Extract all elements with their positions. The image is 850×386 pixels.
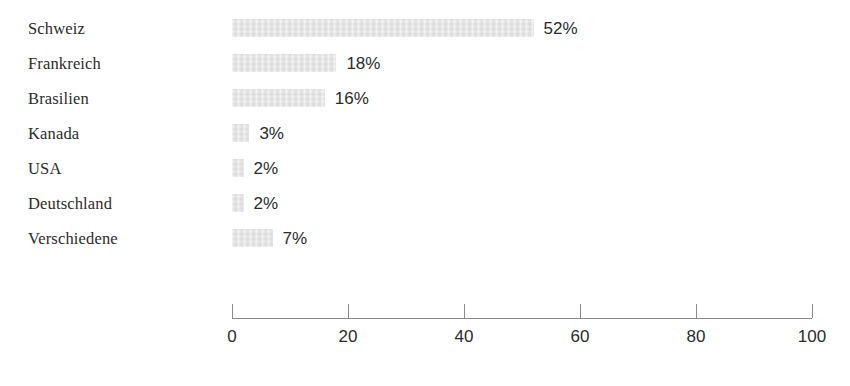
bar-row: USA2% bbox=[0, 151, 850, 186]
category-label-frankreich: Frankreich bbox=[28, 46, 101, 81]
x-axis-tick-label-20: 20 bbox=[339, 327, 358, 347]
bar-row: Schweiz52% bbox=[0, 11, 850, 46]
bar-value-label-frankreich: 18% bbox=[346, 46, 380, 81]
bar-value-label-kanada: 3% bbox=[259, 116, 284, 151]
bar-schweiz bbox=[232, 19, 534, 37]
bar-deutschland bbox=[232, 194, 244, 212]
bar-verschiedene bbox=[232, 229, 273, 247]
category-label-verschiedene: Verschiedene bbox=[28, 221, 118, 256]
x-axis-tick-label-80: 80 bbox=[687, 327, 706, 347]
x-axis-tick-label-0: 0 bbox=[227, 327, 236, 347]
bar-chart: Schweiz52%Frankreich18%Brasilien16%Kanad… bbox=[0, 0, 850, 386]
bar-value-label-verschiedene: 7% bbox=[283, 221, 308, 256]
bar-frankreich bbox=[232, 54, 336, 72]
x-axis-tick-label-40: 40 bbox=[455, 327, 474, 347]
category-label-kanada: Kanada bbox=[28, 116, 79, 151]
category-label-brasilien: Brasilien bbox=[28, 81, 89, 116]
bar-value-label-schweiz: 52% bbox=[544, 11, 578, 46]
bar-brasilien bbox=[232, 89, 325, 107]
x-axis-tick-label-60: 60 bbox=[571, 327, 590, 347]
bar-row: Kanada3% bbox=[0, 116, 850, 151]
category-label-deutschland: Deutschland bbox=[28, 186, 112, 221]
bar-kanada bbox=[232, 124, 249, 142]
bar-usa bbox=[232, 159, 244, 177]
bar-row: Deutschland2% bbox=[0, 186, 850, 221]
category-label-usa: USA bbox=[28, 151, 61, 186]
bar-value-label-brasilien: 16% bbox=[335, 81, 369, 116]
category-label-schweiz: Schweiz bbox=[28, 11, 85, 46]
bar-row: Frankreich18% bbox=[0, 46, 850, 81]
bar-value-label-usa: 2% bbox=[254, 151, 279, 186]
bar-row: Verschiedene7% bbox=[0, 221, 850, 256]
bar-row: Brasilien16% bbox=[0, 81, 850, 116]
bar-value-label-deutschland: 2% bbox=[254, 186, 279, 221]
x-axis-tick-label-100: 100 bbox=[798, 327, 826, 347]
